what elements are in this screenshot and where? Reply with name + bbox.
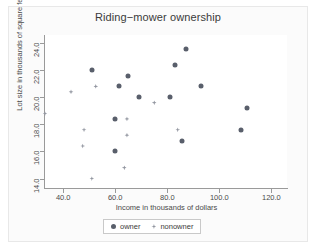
y-axis-tick-label: 24.0 bbox=[33, 43, 42, 58]
y-axis-tick-label: 16.0 bbox=[33, 151, 42, 166]
data-point-owner bbox=[173, 62, 178, 67]
chart-legend: ownernonowner bbox=[103, 219, 201, 234]
data-point-nonowner bbox=[93, 84, 98, 89]
legend-label: nonowner bbox=[160, 222, 193, 231]
data-point-owner bbox=[179, 138, 184, 143]
data-point-owner bbox=[112, 116, 117, 121]
y-axis-tick-label: 14.0 bbox=[33, 178, 42, 193]
chart-figure: Riding−mower ownership 14.016.018.020.02… bbox=[0, 0, 316, 249]
data-point-owner bbox=[136, 95, 141, 100]
y-axis-tick-label: 22.0 bbox=[33, 70, 42, 85]
y-axis-tick-label: 18.0 bbox=[33, 124, 42, 139]
x-axis-tick-label: 60.0 bbox=[108, 193, 123, 202]
x-axis-tick-label: 100.0 bbox=[210, 193, 229, 202]
data-point-nonowner bbox=[80, 144, 85, 149]
data-point-owner bbox=[113, 149, 118, 154]
legend-item-nonowner[interactable]: nonowner bbox=[151, 222, 193, 231]
data-point-nonowner bbox=[175, 127, 180, 132]
legend-marker-owner-icon bbox=[111, 224, 116, 229]
x-axis-tick-label: 80.0 bbox=[160, 193, 175, 202]
legend-label: owner bbox=[120, 222, 140, 231]
data-point-owner bbox=[199, 84, 204, 89]
legend-item-owner[interactable]: owner bbox=[111, 222, 140, 231]
data-point-nonowner bbox=[82, 127, 87, 132]
data-point-owner bbox=[244, 106, 249, 111]
y-axis-title: Lot size in thousands of square feet bbox=[15, 0, 24, 117]
x-axis-tick-label: 120.0 bbox=[262, 193, 281, 202]
legend-marker-nonowner-icon bbox=[151, 224, 156, 229]
plot-area bbox=[45, 35, 287, 188]
data-point-nonowner bbox=[152, 100, 157, 105]
data-point-owner bbox=[167, 95, 172, 100]
data-point-owner bbox=[89, 68, 94, 73]
data-point-nonowner bbox=[69, 89, 74, 94]
x-axis-title: Income in thousands of dollars bbox=[45, 203, 288, 212]
data-point-owner bbox=[117, 84, 122, 89]
y-axis-tick-label: 20.0 bbox=[33, 97, 42, 112]
data-point-nonowner bbox=[122, 165, 127, 170]
data-point-nonowner bbox=[89, 176, 94, 181]
data-point-nonowner bbox=[124, 133, 129, 138]
data-point-owner bbox=[125, 73, 130, 78]
data-point-owner bbox=[183, 46, 188, 51]
chart-title: Riding−mower ownership bbox=[0, 11, 316, 23]
x-axis-tick-label: 40.0 bbox=[56, 193, 71, 202]
data-point-nonowner bbox=[124, 116, 129, 121]
data-point-owner bbox=[239, 127, 244, 132]
